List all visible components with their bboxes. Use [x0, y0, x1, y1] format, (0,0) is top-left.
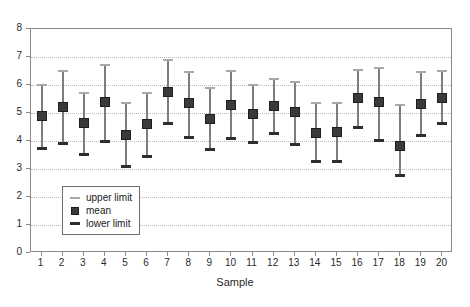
x-axis-tick-label: 4: [101, 258, 107, 268]
x-axis-tick-mark: [357, 252, 358, 256]
x-axis-tick-label: 1: [38, 258, 44, 268]
x-axis-tick-mark: [188, 252, 189, 256]
upper-limit-key-icon: [68, 197, 82, 199]
x-axis-tick-label: 6: [143, 258, 149, 268]
x-axis-tick-label: 11: [246, 258, 256, 268]
lower-limit-key-icon: [68, 222, 82, 225]
x-axis-tick-mark: [230, 252, 231, 256]
x-axis-tick-mark: [441, 252, 442, 256]
x-axis-tick-mark: [167, 252, 168, 256]
x-axis-tick-label: 13: [288, 258, 299, 268]
x-axis-tick-label: 9: [207, 258, 213, 268]
x-axis-tick-mark: [83, 252, 84, 256]
x-axis-tick-mark: [336, 252, 337, 256]
x-axis: 1234567891011121314151617181920: [0, 0, 470, 307]
x-axis-tick-mark: [125, 252, 126, 256]
error-bar-chart: 012345678 123456789101112131415161718192…: [0, 0, 470, 307]
x-axis-tick-label: 15: [330, 258, 341, 268]
legend-swatch: [71, 207, 79, 215]
legend-item-label: lower limit: [86, 218, 130, 229]
mean-key-icon: [68, 207, 82, 215]
x-axis-tick-label: 16: [351, 258, 362, 268]
legend-item: upper limit: [68, 191, 132, 204]
legend-swatch: [70, 197, 80, 199]
x-axis-tick-mark: [420, 252, 421, 256]
x-axis-tick-mark: [273, 252, 274, 256]
x-axis-tick-mark: [209, 252, 210, 256]
x-axis-tick-mark: [315, 252, 316, 256]
x-axis-tick-label: 8: [185, 258, 191, 268]
x-axis-tick-label: 14: [309, 258, 320, 268]
x-axis-tick-mark: [399, 252, 400, 256]
legend-item-label: upper limit: [86, 192, 132, 203]
chart-legend: upper limitmeanlower limit: [62, 186, 140, 235]
x-axis-tick-label: 10: [225, 258, 236, 268]
x-axis-tick-mark: [146, 252, 147, 256]
x-axis-tick-mark: [104, 252, 105, 256]
x-axis-label: Sample: [0, 276, 470, 288]
x-axis-tick-label: 18: [394, 258, 405, 268]
x-axis-tick-label: 2: [59, 258, 65, 268]
x-axis-tick-label: 19: [415, 258, 426, 268]
x-axis-tick-label: 3: [80, 258, 86, 268]
x-axis-tick-label: 7: [164, 258, 170, 268]
x-axis-tick-label: 17: [373, 258, 384, 268]
x-axis-tick-label: 20: [436, 258, 447, 268]
legend-item-label: mean: [86, 205, 111, 216]
x-axis-tick-mark: [378, 252, 379, 256]
x-axis-tick-label: 5: [122, 258, 128, 268]
x-axis-tick-mark: [252, 252, 253, 256]
legend-item: mean: [68, 204, 132, 217]
legend-swatch: [70, 222, 80, 225]
x-axis-tick-label: 12: [267, 258, 278, 268]
legend-item: lower limit: [68, 217, 132, 230]
x-axis-tick-mark: [62, 252, 63, 256]
x-axis-tick-mark: [41, 252, 42, 256]
x-axis-tick-mark: [294, 252, 295, 256]
